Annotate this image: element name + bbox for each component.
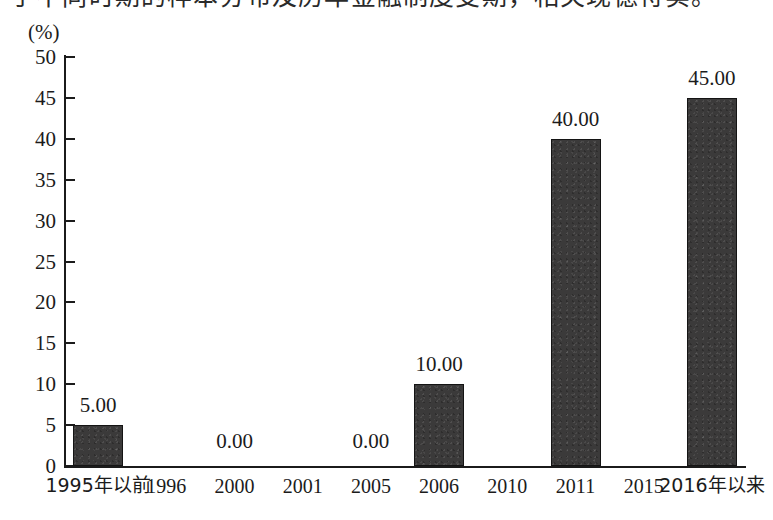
- x-axis-tick-label: 2011: [556, 476, 595, 496]
- y-axis-tick-label: 50: [2, 47, 56, 68]
- bar: [73, 425, 123, 466]
- y-axis-tick-label: 20: [2, 292, 56, 313]
- y-axis-tick-label: 15: [2, 333, 56, 354]
- bar-value-label: 0.00: [353, 431, 390, 452]
- bar-value-label: 0.00: [216, 431, 253, 452]
- y-axis-tick-label: 35: [2, 170, 56, 191]
- x-axis-tick-label: 2001: [283, 476, 323, 496]
- y-axis-tick-label: 25: [2, 252, 56, 273]
- x-axis-tick-label: 2006: [419, 476, 459, 496]
- x-axis-tick-label: 2000: [215, 476, 255, 496]
- bar: [414, 384, 464, 466]
- x-axis-tick-label: 1995年以前: [45, 476, 150, 495]
- x-axis-tick-label: 1996: [146, 476, 186, 496]
- y-axis-tick-label: 30: [2, 211, 56, 232]
- y-axis-unit-label: (%): [28, 22, 59, 43]
- x-axis-tick-label: 2016年以来: [659, 476, 764, 495]
- y-axis-tick-label: 10: [2, 374, 56, 395]
- bar-value-label: 40.00: [552, 109, 599, 130]
- bar-value-label: 45.00: [688, 68, 735, 89]
- y-axis-tick-label: 40: [2, 129, 56, 150]
- y-axis-tick-label: 5: [2, 415, 56, 436]
- bar-value-label: 10.00: [415, 354, 462, 375]
- plot-area: [64, 57, 746, 466]
- x-axis-tick-label: 2010: [487, 476, 527, 496]
- x-axis-tick-label: 2015: [624, 476, 664, 496]
- x-axis-tick-label: 2005: [351, 476, 391, 496]
- y-axis-tick-label: 45: [2, 88, 56, 109]
- bar: [551, 139, 601, 466]
- bar-value-label: 5.00: [80, 395, 117, 416]
- bar-chart-figure: (%) 05101520253035404550 1995年以前19962000…: [0, 0, 773, 520]
- bar: [687, 98, 737, 466]
- x-axis-line: [64, 466, 746, 468]
